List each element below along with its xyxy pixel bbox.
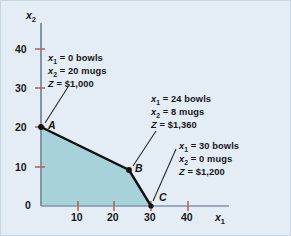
chart-canvas (1, 1, 291, 236)
graphical-lp-solution-figure: x2 x1 40 30 20 10 0 10 20 30 40 A B C x1… (0, 0, 291, 236)
annotation-a-line-2: x2 = 20 mugs (48, 66, 107, 79)
x-tick-label-20: 20 (107, 211, 119, 224)
vertex-point-a (38, 124, 44, 130)
leader-line-b (133, 131, 156, 166)
annotation-c-line-2: x2 = 0 mugs (179, 154, 239, 167)
y-tick-label-40: 40 (15, 43, 27, 56)
annotation-a-line-1: x1 = 0 bowls (48, 53, 107, 66)
annotation-c-line-1: x1 = 30 bowls (179, 141, 239, 154)
y-tick-label-20: 20 (15, 121, 27, 134)
vertex-point-c (148, 203, 153, 208)
y-axis-label: x2 (26, 9, 36, 24)
vertex-label-a: A (48, 119, 56, 132)
annotation-b-line-3: Z = $1,360 (151, 120, 211, 131)
annotation-vertex-c: x1 = 30 bowls x2 = 0 mugs Z = $1,200 (179, 141, 239, 179)
annotation-c-line-3: Z = $1,200 (179, 167, 239, 178)
y-tick-label-30: 30 (15, 82, 27, 95)
vertex-label-b: B (135, 162, 143, 175)
vertex-point-b (126, 167, 132, 173)
y-tick-label-10: 10 (15, 161, 27, 174)
annotation-a-line-3: Z = $1,000 (48, 79, 107, 90)
vertex-label-c: C (159, 191, 167, 204)
x-tick-label-10: 10 (71, 211, 83, 224)
x-tick-label-30: 30 (144, 211, 156, 224)
annotation-b-line-2: x2 = 8 mugs (151, 107, 211, 120)
annotation-vertex-a: x1 = 0 bowls x2 = 20 mugs Z = $1,000 (48, 53, 107, 91)
x-tick-label-40: 40 (181, 211, 193, 224)
annotation-b-line-1: x1 = 24 bowls (151, 94, 211, 107)
annotation-vertex-b: x1 = 24 bowls x2 = 8 mugs Z = $1,360 (151, 94, 211, 132)
x-axis-label: x1 (215, 211, 225, 226)
y-tick-label-0: 0 (25, 199, 31, 212)
leader-line-a (45, 87, 68, 123)
